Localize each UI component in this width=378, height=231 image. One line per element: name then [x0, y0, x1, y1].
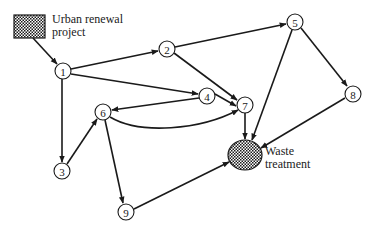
edge-4-7: [215, 94, 236, 106]
node-label: 9: [123, 207, 129, 219]
waste-treatment-ellipse: [228, 140, 262, 170]
waste-treatment-line2: treatment: [265, 158, 310, 171]
edge-8-sink: [261, 98, 345, 148]
node-label: 6: [100, 107, 106, 119]
edge-5-sink: [252, 30, 292, 140]
node-label: 4: [204, 91, 210, 103]
node-8: 8: [345, 86, 361, 102]
node-3: 3: [54, 163, 70, 179]
node-5: 5: [287, 14, 303, 30]
node-4: 4: [199, 88, 215, 104]
edge-1-2: [71, 51, 158, 69]
waste-treatment-label: Waste treatment: [265, 145, 310, 171]
edge-6-7-curved: [110, 110, 238, 128]
node-7: 7: [237, 97, 253, 113]
urban-renewal-box: [14, 15, 45, 38]
edge-source-1: [33, 38, 57, 64]
node-label: 5: [292, 17, 298, 29]
node-label: 3: [59, 166, 65, 178]
node-1: 1: [55, 63, 71, 79]
edge-9-sink: [134, 162, 229, 209]
edge-2-5: [175, 24, 286, 47]
node-2: 2: [159, 41, 175, 57]
node-label: 2: [164, 44, 170, 56]
edges: [33, 24, 347, 209]
edge-6-9: [105, 120, 123, 203]
edge-3-6: [67, 119, 97, 164]
node-label: 7: [242, 100, 248, 112]
urban-renewal-line2: project: [52, 26, 123, 39]
edge-4-6: [112, 98, 199, 110]
node-label: 1: [60, 66, 66, 78]
edge-1-4: [71, 74, 198, 94]
node-label: 8: [350, 89, 356, 101]
node-6: 6: [95, 104, 111, 120]
edge-5-8: [301, 28, 347, 86]
urban-renewal-label: Urban renewal project: [52, 13, 123, 39]
node-9: 9: [118, 204, 134, 220]
